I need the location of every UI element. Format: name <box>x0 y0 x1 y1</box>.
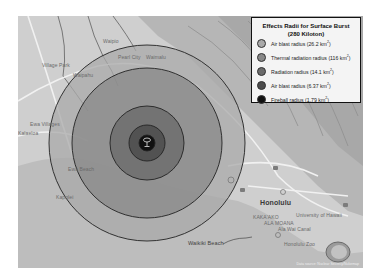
place-label: Ewa Villages <box>30 121 60 127</box>
legend-title-line1: Effects Radii for Surface Burst <box>252 22 360 30</box>
place-label: Pearl City <box>118 54 141 60</box>
legend-item-air-blast-outer: Air blast radius (26.2 km2) <box>257 38 331 48</box>
legend-item-air-blast-inner: Air blast radius (6.37 km2) <box>257 80 331 90</box>
place-label: University of Hawaii <box>296 212 342 218</box>
place-label: Kapolei <box>56 194 73 200</box>
legend-item-thermal: Thermal radiation radius (116 km2) <box>257 52 350 62</box>
map-attribution: Data source: Nuclear Secrecy/Nukemap <box>297 262 359 266</box>
legend-label: Air blast radius (26.2 km2) <box>271 40 331 47</box>
legend-label: Air blast radius (6.37 km2) <box>271 82 331 89</box>
blast-map[interactable]: Waipio Village Park Waipahu Pearl City W… <box>18 16 363 268</box>
legend-label: Fireball radius (1.79 km2) <box>271 96 329 103</box>
legend-label: Thermal radiation radius (116 km2) <box>271 54 350 61</box>
place-label: Waipahu <box>73 72 93 78</box>
place-label: Kalaeloa <box>18 130 38 136</box>
place-label: Honolulu Zoo <box>284 241 315 247</box>
legend-swatch-icon <box>257 53 266 62</box>
legend-item-fireball: Fireball radius (1.79 km2) <box>257 94 329 104</box>
place-label: Waipio <box>103 38 119 44</box>
place-label: Ewa Beach <box>68 166 94 172</box>
place-label: Waimalu <box>146 54 166 60</box>
map-legend: Effects Radii for Surface Burst (280 Kil… <box>251 17 361 103</box>
legend-swatch-icon <box>257 81 266 90</box>
legend-title-line2: (280 Kiloton) <box>252 30 360 38</box>
city-label-honolulu: Honolulu <box>260 199 291 206</box>
place-label: Village Park <box>42 62 70 68</box>
legend-label: Radiation radius (14.1 km2) <box>271 68 334 75</box>
legend-item-radiation: Radiation radius (14.1 km2) <box>257 66 334 76</box>
legend-title: Effects Radii for Surface Burst (280 Kil… <box>252 22 360 38</box>
legend-swatch-icon <box>257 95 266 104</box>
legend-swatch-icon <box>257 67 266 76</box>
place-label: Ala Wai Canal <box>278 226 311 232</box>
legend-swatch-icon <box>257 39 266 48</box>
place-label-waikiki: Waikiki Beach <box>188 240 224 246</box>
